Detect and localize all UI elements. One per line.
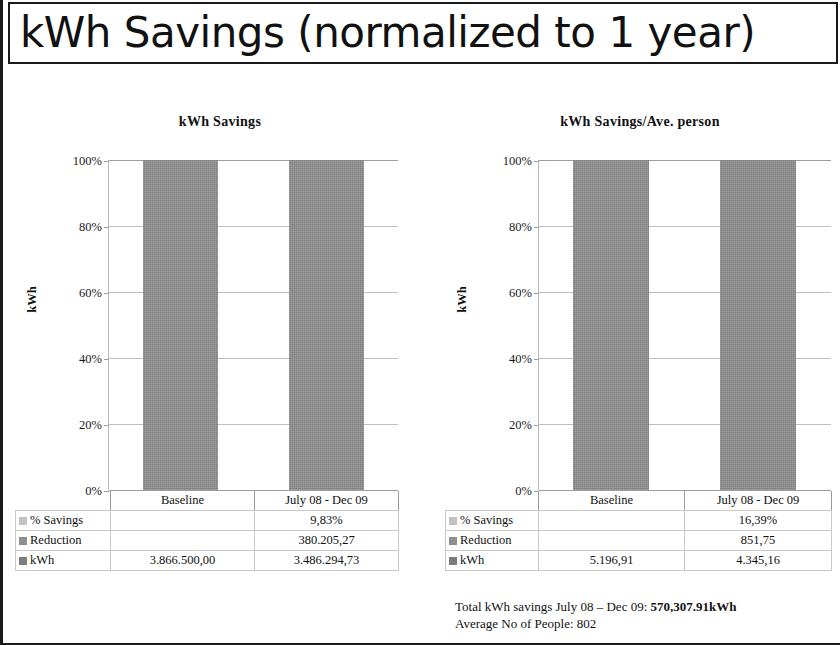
bar-july08-dec09: [289, 160, 364, 490]
row-label-kwh: kWh: [16, 551, 111, 571]
chart-panel-kwh-savings: kWh Savings kWh 100% 80% 60% 40% 2: [15, 112, 425, 492]
cell-reduction-baseline: [539, 531, 685, 551]
cell-pct-savings-period: 9,83%: [255, 511, 399, 531]
row-label-text: Reduction: [460, 533, 511, 547]
row-label-text: % Savings: [30, 513, 83, 527]
footer-total-value: 570,307.91kWh: [651, 599, 737, 614]
table-header-row: Baseline July 08 - Dec 09: [446, 491, 832, 511]
legend-swatch-icon: [19, 517, 27, 525]
table-row: Reduction 851,75: [446, 531, 832, 551]
cell-kwh-baseline: 5.196,91: [539, 551, 685, 571]
legend-swatch-icon: [449, 537, 457, 545]
table-row: kWh 3.866.500,00 3.486.294,73: [16, 551, 399, 571]
cell-kwh-period: 3.486.294,73: [255, 551, 399, 571]
row-label-kwh: kWh: [446, 551, 539, 571]
y-tick-label: 20%: [509, 418, 532, 433]
y-tick-label: 100%: [73, 154, 102, 169]
legend-swatch-icon: [19, 557, 27, 565]
cell-reduction-baseline: [111, 531, 255, 551]
y-tick-label: 60%: [509, 286, 532, 301]
tick-mark: [534, 293, 539, 294]
row-label-text: Reduction: [30, 533, 81, 547]
tick-mark: [104, 293, 109, 294]
column-header-period: July 08 - Dec 09: [685, 491, 832, 511]
y-axis-label: kWh: [455, 286, 470, 312]
y-tick-label: 20%: [79, 418, 102, 433]
footer-line-people: Average No of People: 802: [455, 615, 736, 632]
y-tick-label: 40%: [79, 352, 102, 367]
row-label-reduction: Reduction: [16, 531, 111, 551]
row-label-pct-savings: % Savings: [446, 511, 539, 531]
y-axis-label: kWh: [25, 286, 40, 312]
data-table-kwh-savings-per-person: Baseline July 08 - Dec 09 % Savings 16,3…: [445, 491, 832, 571]
plot-area: 100% 80% 60% 40% 20% 0%: [108, 160, 398, 490]
column-header-period: July 08 - Dec 09: [255, 491, 399, 511]
y-tick-label: 60%: [79, 286, 102, 301]
table-corner-cell: [446, 491, 539, 511]
tick-mark: [104, 359, 109, 360]
page-title: kWh Savings (normalized to 1 year): [20, 8, 755, 57]
chart-panel-kwh-savings-per-person: kWh Savings/Ave. person kWh 100% 80% 60%…: [445, 112, 835, 492]
table-row: Reduction 380.205,27: [16, 531, 399, 551]
cell-kwh-period: 4.345,16: [685, 551, 832, 571]
plot-area: 100% 80% 60% 40% 20% 0%: [538, 160, 831, 490]
tick-mark: [104, 161, 109, 162]
bar-baseline: [573, 160, 649, 490]
chart-title: kWh Savings/Ave. person: [445, 114, 835, 130]
legend-swatch-icon: [449, 517, 457, 525]
cell-kwh-baseline: 3.866.500,00: [111, 551, 255, 571]
y-tick-label: 80%: [79, 220, 102, 235]
footer-line-total: Total kWh savings July 08 – Dec 09: 570,…: [455, 598, 736, 615]
summary-footer: Total kWh savings July 08 – Dec 09: 570,…: [455, 598, 736, 632]
cell-reduction-period: 851,75: [685, 531, 832, 551]
row-label-text: % Savings: [460, 513, 513, 527]
table-row: % Savings 9,83%: [16, 511, 399, 531]
y-tick-label: 80%: [509, 220, 532, 235]
row-label-pct-savings: % Savings: [16, 511, 111, 531]
legend-swatch-icon: [19, 537, 27, 545]
chart-title: kWh Savings: [15, 114, 425, 130]
slide-title-box: kWh Savings (normalized to 1 year): [8, 2, 838, 64]
cell-pct-savings-baseline: [111, 511, 255, 531]
data-table-kwh-savings: Baseline July 08 - Dec 09 % Savings 9,83…: [15, 491, 399, 571]
bar-july08-dec09: [720, 160, 796, 490]
row-label-text: kWh: [460, 553, 484, 567]
column-header-baseline: Baseline: [539, 491, 685, 511]
row-label-reduction: Reduction: [446, 531, 539, 551]
cell-reduction-period: 380.205,27: [255, 531, 399, 551]
y-tick-label: 100%: [503, 154, 532, 169]
legend-swatch-icon: [449, 557, 457, 565]
table-row: kWh 5.196,91 4.345,16: [446, 551, 832, 571]
row-label-text: kWh: [30, 553, 54, 567]
tick-mark: [534, 359, 539, 360]
tick-mark: [534, 227, 539, 228]
tick-mark: [104, 227, 109, 228]
y-tick-label: 40%: [509, 352, 532, 367]
tick-mark: [104, 425, 109, 426]
bar-baseline: [143, 160, 218, 490]
tick-mark: [534, 161, 539, 162]
cell-pct-savings-period: 16,39%: [685, 511, 832, 531]
column-header-baseline: Baseline: [111, 491, 255, 511]
tick-mark: [534, 425, 539, 426]
cell-pct-savings-baseline: [539, 511, 685, 531]
slide-canvas: kWh Savings (normalized to 1 year) kWh S…: [0, 0, 840, 645]
table-row: % Savings 16,39%: [446, 511, 832, 531]
table-corner-cell: [16, 491, 111, 511]
footer-total-prefix: Total kWh savings July 08 – Dec 09:: [455, 599, 651, 614]
table-header-row: Baseline July 08 - Dec 09: [16, 491, 399, 511]
